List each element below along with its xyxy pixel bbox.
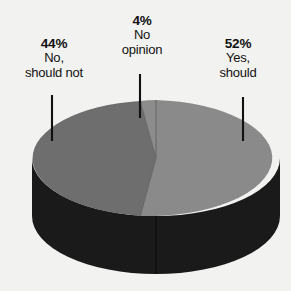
callout-yes-line2: should [196,66,280,81]
callout-yes-line1: Yes, [196,51,280,66]
callout-no-opinion-percent: 4% [104,13,180,28]
callout-no-opinion-line2: opinion [104,43,180,58]
pie-top-faces [33,100,273,216]
callout-no-line2: should not [2,66,106,81]
callout-no-percent: 44% [2,36,106,51]
callout-yes-should: 52% Yes, should [196,36,280,81]
chart-canvas: 44% No, should not 4% No opinion 52% Yes… [0,0,291,291]
callout-yes-percent: 52% [196,36,280,51]
callout-no-opinion-line1: No [104,28,180,43]
callout-no-opinion: 4% No opinion [104,13,180,58]
callout-no-line1: No, [2,51,106,66]
callout-no-should-not: 44% No, should not [2,36,106,81]
